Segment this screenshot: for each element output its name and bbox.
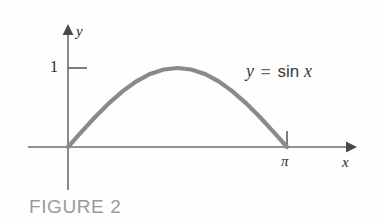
- x-axis-arrowhead: [346, 142, 357, 153]
- equation-lhs: y: [246, 61, 254, 81]
- x-axis-label: x: [342, 155, 349, 170]
- y-axis-label: y: [76, 24, 83, 39]
- figure-caption: FIGURE 2: [29, 196, 121, 218]
- sine-plot-svg: [0, 0, 383, 224]
- equation-argument: x: [304, 61, 312, 81]
- equation-operator: =: [259, 62, 273, 81]
- y-axis-arrowhead: [63, 24, 74, 35]
- y-tick-label-1: 1: [50, 59, 58, 75]
- x-tick-label-pi: π: [281, 154, 289, 169]
- figure-container: y x 1 π y = sin x FIGURE 2: [0, 0, 383, 224]
- equation-function: sin: [277, 62, 299, 81]
- curve-equation-label: y = sin x: [246, 62, 312, 80]
